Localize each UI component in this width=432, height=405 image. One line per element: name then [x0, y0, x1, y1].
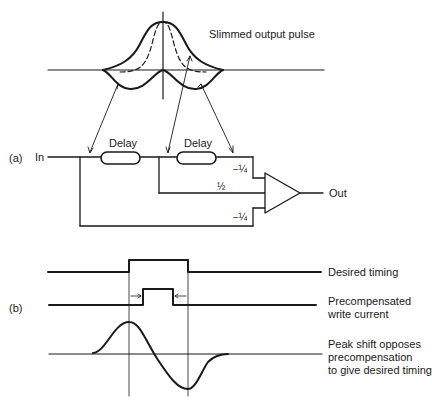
coefficient-bottom: −¼: [233, 212, 247, 224]
readback-pulse-curve: [93, 322, 228, 389]
delay-block-1: [101, 152, 140, 164]
input-label: In: [35, 151, 44, 163]
desired-timing-waveform: [48, 260, 321, 272]
coefficient-top: −¼: [233, 164, 247, 176]
panel-b-label: (b): [9, 302, 22, 314]
pulse-label: Slimmed output pulse: [209, 28, 315, 40]
delay-2-label: Delay: [184, 137, 212, 149]
desired-timing-label: Desired timing: [328, 266, 398, 278]
output-label: Out: [329, 187, 347, 199]
peak-shift-label-line3: to give desired timing: [328, 364, 432, 376]
precomp-label-line1: Precompensated: [328, 295, 411, 307]
delay-1-label: Delay: [109, 137, 137, 149]
delay-block-2: [177, 152, 216, 164]
precomp-waveform: [49, 289, 316, 305]
coefficient-middle: ½: [217, 181, 225, 193]
peak-shift-label-line2: precompensation: [328, 351, 412, 363]
summing-amplifier: [265, 173, 300, 213]
precomp-label-line2: write current: [328, 308, 389, 320]
peak-shift-label-line1: Peak shift opposes: [328, 338, 421, 350]
panel-a-label: (a): [9, 152, 22, 164]
